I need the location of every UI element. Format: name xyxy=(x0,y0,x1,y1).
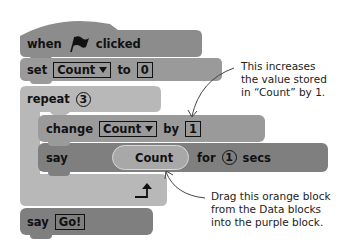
annotation-line: in “Count” by 1. xyxy=(241,86,327,99)
annotation-drag-explanation: Drag this orange block from the Data blo… xyxy=(211,190,331,229)
annotation-line: from the Data blocks xyxy=(211,203,331,216)
annotation-line: This increases xyxy=(241,60,327,73)
annotation-line: Drag this orange block xyxy=(211,190,331,203)
annotation-line: the value stored xyxy=(241,73,327,86)
annotation-change-explanation: This increases the value stored in “Coun… xyxy=(241,60,327,99)
annotation-line: into the purple block. xyxy=(211,216,331,229)
